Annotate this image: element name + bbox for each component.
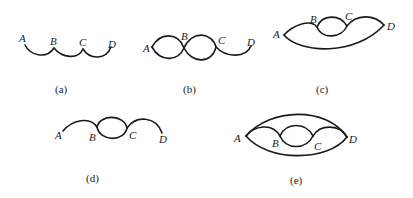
edge-c-bc-lower: [317, 26, 347, 36]
node-c-D: D: [386, 20, 395, 32]
caption-c: (c): [316, 83, 329, 96]
node-d-C: C: [129, 129, 137, 141]
edge-b-bc-upper: [184, 35, 216, 48]
diagram-a: A B C D (a): [18, 32, 116, 96]
edge-a-bc: [54, 48, 83, 56]
edge-b-bc-lower: [184, 47, 216, 60]
edge-c-cd: [347, 17, 384, 26]
node-c-B: B: [310, 13, 317, 25]
node-b-A: A: [142, 42, 150, 54]
node-d-B: B: [89, 131, 96, 143]
diagram-d: A B C D (d): [54, 117, 167, 185]
edge-c-bc-upper: [317, 17, 347, 27]
node-e-A: A: [233, 132, 241, 144]
edge-b-cd: [216, 46, 251, 55]
node-b-C: C: [218, 34, 226, 46]
diagram-e: A B C D (e): [233, 114, 357, 187]
edge-e-ab: [246, 127, 280, 136]
multigraph-figure: A B C D (a) A B C D (b) A B C D (c) A: [0, 0, 413, 198]
node-d-A: A: [54, 129, 62, 141]
caption-b: (b): [183, 83, 196, 96]
node-e-B: B: [272, 137, 279, 149]
node-c-C: C: [345, 10, 353, 22]
edge-e-bc-upper: [280, 126, 313, 137]
diagram-c: A B C D (c): [272, 10, 395, 96]
node-a-D: D: [107, 38, 116, 50]
edge-e-bc-lower: [280, 136, 313, 147]
edge-b-ab-upper: [152, 36, 184, 48]
node-d-D: D: [158, 133, 167, 145]
edge-e-cd: [313, 127, 347, 137]
edge-d-bc-lower: [97, 127, 127, 138]
node-c-A: A: [272, 28, 280, 40]
diagram-b: A B C D (b): [142, 30, 255, 96]
edge-d-ab: [63, 120, 97, 131]
node-a-A: A: [18, 32, 26, 44]
edge-d-bc-upper: [97, 117, 127, 128]
edge-b-ab-lower: [152, 47, 184, 58]
edge-c-ad: [284, 25, 384, 49]
node-b-B: B: [181, 30, 188, 42]
caption-e: (e): [290, 174, 303, 187]
node-b-D: D: [246, 36, 255, 48]
node-a-C: C: [79, 36, 87, 48]
node-a-B: B: [50, 35, 57, 47]
caption-a: (a): [55, 83, 68, 96]
node-e-C: C: [314, 140, 322, 152]
edge-a-cd: [83, 47, 111, 57]
caption-d: (d): [86, 172, 99, 185]
node-e-D: D: [348, 133, 357, 145]
